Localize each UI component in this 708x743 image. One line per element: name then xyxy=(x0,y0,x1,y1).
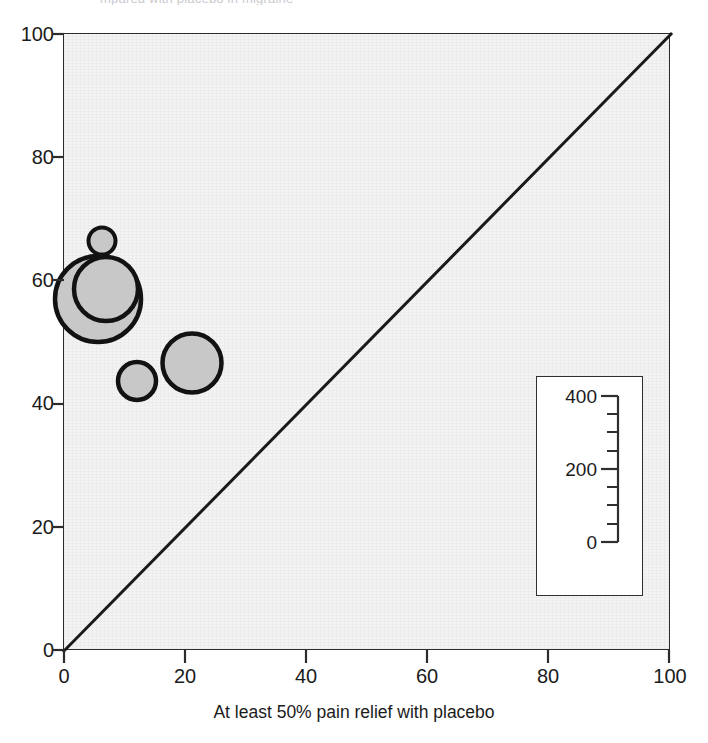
x-axis-title: At least 50% pain relief with placebo xyxy=(0,702,708,723)
legend-tick-label-200: 200 xyxy=(537,460,597,479)
y-tick-label-60: 60 xyxy=(10,270,54,290)
cut-off-title-text: mpared with placebo in migraine xyxy=(100,0,520,5)
x-tick-label-60: 60 xyxy=(397,666,457,686)
y-tick-label-0: 0 xyxy=(10,640,54,660)
bubble-study-1 xyxy=(89,228,116,255)
legend-tick-label-0: 0 xyxy=(537,533,597,552)
x-tick-label-80: 80 xyxy=(518,666,578,686)
y-tick-label-20: 20 xyxy=(10,517,54,537)
y-tick-label-40: 40 xyxy=(10,393,54,413)
y-tick-label-80: 80 xyxy=(10,147,54,167)
x-axis-tick-marks xyxy=(63,650,671,666)
y-axis-tick-labels: 100 80 60 40 20 0 xyxy=(0,0,54,743)
x-tick-label-40: 40 xyxy=(276,666,336,686)
legend-scale-ruler xyxy=(537,377,644,597)
bubble-size-legend: 400 200 0 xyxy=(536,376,643,596)
y-tick-label-100: 100 xyxy=(10,24,54,44)
bubble-chart-figure: mpared with placebo in migraine 100 80 6… xyxy=(0,0,708,743)
legend-tick-label-400: 400 xyxy=(537,387,597,406)
bubble-study-4 xyxy=(118,362,156,400)
bubble-study-3 xyxy=(74,257,138,321)
x-tick-label-100: 100 xyxy=(640,666,700,686)
x-axis-tick-labels: 0 20 40 60 80 100 xyxy=(0,666,708,692)
bubble-series xyxy=(55,228,222,401)
bubble-study-5 xyxy=(163,334,222,393)
x-tick-label-20: 20 xyxy=(155,666,215,686)
x-tick-label-0: 0 xyxy=(34,666,94,686)
